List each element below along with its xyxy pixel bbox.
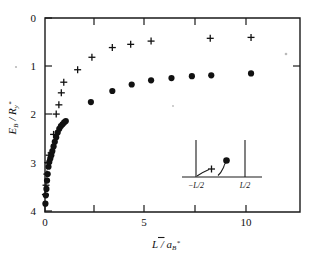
svg-text:L / aB*: L / aB*: [151, 238, 180, 252]
data-point-plus: [53, 111, 60, 118]
data-point-plus: [248, 34, 255, 41]
data-point-dot: [63, 118, 69, 124]
data-point-dot: [129, 81, 135, 87]
inset-electron-dot: [223, 157, 230, 164]
scan-speck: [15, 66, 17, 68]
x-axis-title-denominator-sup: *: [176, 239, 180, 247]
y-axis-title-denominator-sup: *: [7, 101, 15, 105]
data-point-dot: [42, 201, 48, 207]
inset-leader-line: [197, 170, 209, 177]
data-point-plus: [127, 41, 134, 48]
x-tick-label: 5: [141, 216, 147, 228]
scatter-plot: 0 1 2 3 4 0 5 10 EB / Ry* L / aB*: [0, 0, 309, 263]
y-axis-tick-labels: 0 1 2 3 4: [31, 12, 37, 217]
inset-quantum-well: −L/2 L/2: [182, 140, 262, 190]
y-tick-label: 3: [31, 157, 37, 169]
x-axis-title: L / aB*: [151, 238, 180, 253]
series-dot-markers: [42, 70, 254, 206]
y-tick-label: 0: [31, 12, 37, 24]
inset-electron-tail: [218, 162, 226, 176]
data-point-dot: [109, 88, 115, 94]
series-plus-markers: [42, 34, 255, 198]
x-axis-tick-labels: 0 5 10: [42, 216, 252, 228]
data-point-plus: [55, 101, 62, 108]
x-tick-label: 0: [42, 216, 48, 228]
data-point-dot: [208, 72, 214, 78]
figure-container: 0 1 2 3 4 0 5 10 EB / Ry* L / aB*: [0, 0, 309, 263]
plot-frame: [45, 18, 300, 212]
y-tick-label: 1: [31, 60, 37, 72]
x-axis-ticks: [45, 18, 300, 212]
data-point-dot: [189, 73, 195, 79]
svg-text:EB / Ry*: EB / Ry*: [6, 101, 20, 135]
inset-left-wall-label: −L/2: [188, 181, 204, 190]
data-point-dot: [43, 192, 49, 198]
data-point-plus: [88, 54, 95, 61]
data-point-dot: [45, 171, 51, 177]
data-point-dot: [44, 177, 50, 183]
data-point-plus: [58, 89, 65, 96]
data-point-plus: [148, 38, 155, 45]
y-tick-label: 4: [31, 205, 37, 217]
data-point-dot: [43, 186, 49, 192]
data-point-plus: [60, 79, 67, 86]
data-point-plus: [74, 66, 81, 73]
data-point-dot: [168, 75, 174, 81]
data-point-dot: [148, 77, 154, 83]
scan-speck: [172, 105, 174, 107]
data-point-dot: [88, 99, 94, 105]
data-point-dot: [248, 70, 254, 76]
x-tick-label: 10: [241, 216, 253, 228]
data-point-plus: [207, 35, 214, 42]
data-point-plus: [109, 44, 116, 51]
y-tick-label: 2: [31, 108, 37, 120]
inset-right-wall-label: L/2: [239, 181, 251, 190]
scan-speck: [285, 53, 288, 56]
inset-hole-plus-icon: [208, 166, 215, 173]
y-axis-title: EB / Ry*: [6, 101, 20, 135]
